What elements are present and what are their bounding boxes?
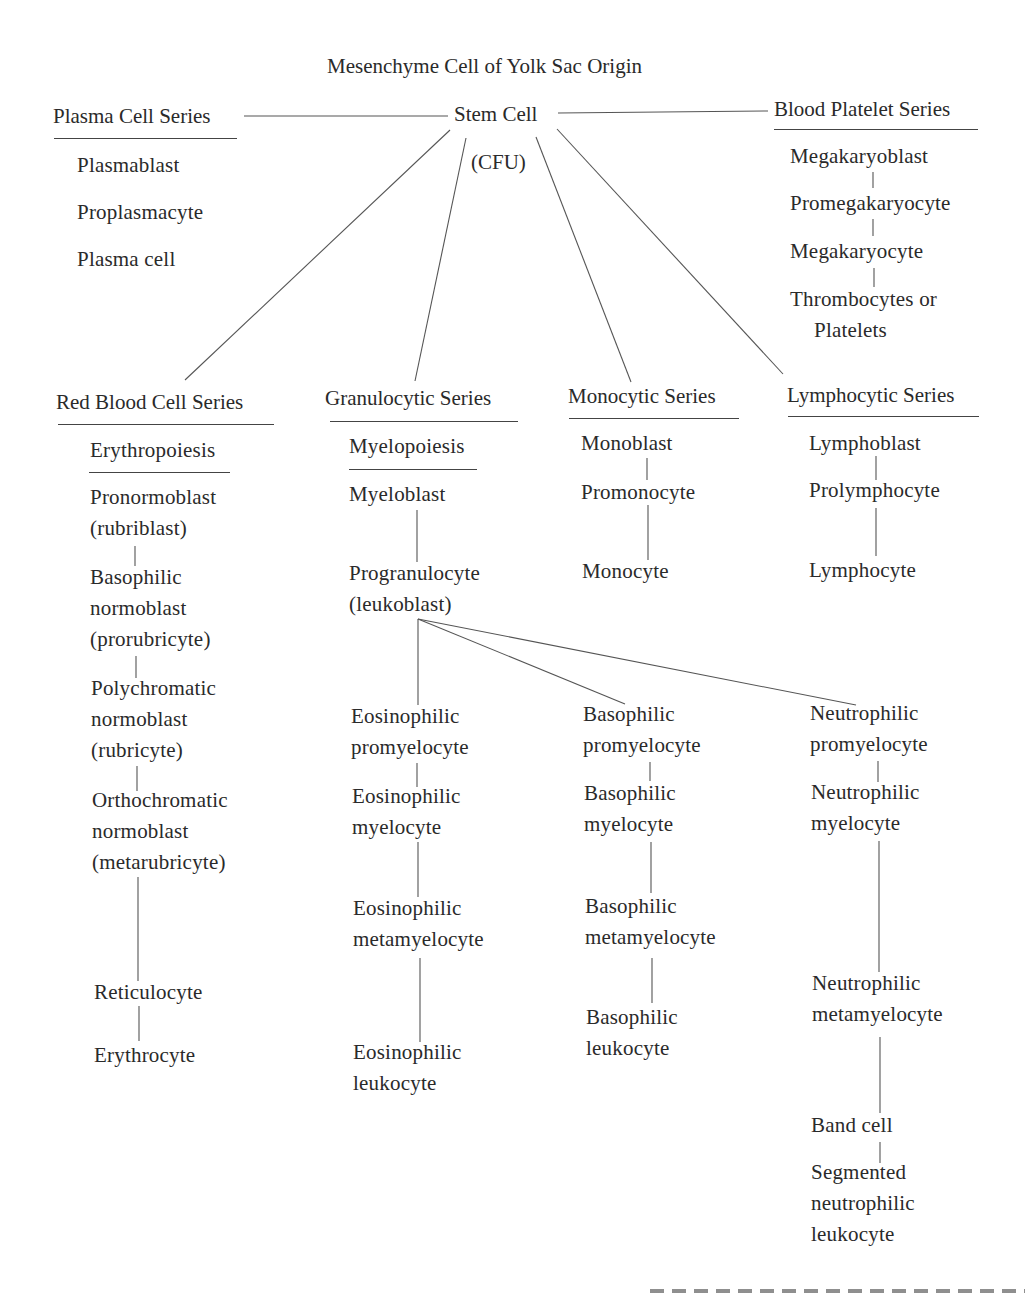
lymphocytic-stage: Lymphocyte xyxy=(809,555,916,586)
root-stem-cell: Stem Cell xyxy=(454,100,537,128)
granulocytic-subtitle-rule xyxy=(349,469,477,470)
red-series-title: Red Blood Cell Series xyxy=(56,388,243,416)
lymphocytic-stage: Prolymphocyte xyxy=(809,475,940,506)
granulocytic-series-rule xyxy=(330,421,518,422)
monocytic-series-rule xyxy=(569,418,739,419)
eosinophilic-stage: Eosinophilicpromyelocyte xyxy=(351,701,469,763)
monocytic-stage: Promonocyte xyxy=(581,477,695,508)
plasma-series-title: Plasma Cell Series xyxy=(53,102,210,130)
diagram-title: Mesenchyme Cell of Yolk Sac Origin xyxy=(327,52,642,80)
granulocytic-series-subtitle: Myelopoiesis xyxy=(349,431,465,462)
neutrophilic-stage: Neutrophilicpromyelocyte xyxy=(810,698,928,760)
neutrophilic-stage: Neutrophilicmetamyelocyte xyxy=(812,968,943,1030)
plasma-stage: Plasma cell xyxy=(77,244,175,275)
eosinophilic-stage: Eosinophilicmetamyelocyte xyxy=(353,893,484,955)
eosinophilic-stage: Eosinophilicmyelocyte xyxy=(352,781,461,843)
basophilic-stage: Basophilicmetamyelocyte xyxy=(585,891,716,953)
granulocytic-stage: Progranulocyte(leukoblast) xyxy=(349,558,480,620)
plasma-series-rule xyxy=(54,138,237,139)
granulocytic-series-title: Granulocytic Series xyxy=(325,384,491,412)
plasma-stage: Proplasmacyte xyxy=(77,197,203,228)
platelet-stage: Promegakaryocyte xyxy=(790,188,951,219)
red-stage: Reticulocyte xyxy=(94,977,203,1008)
neutrophilic-stage: Neutrophilicmyelocyte xyxy=(811,777,920,839)
red-stage: Polychromaticnormoblast(rubricyte) xyxy=(91,673,216,766)
platelet-stage: Thrombocytes or xyxy=(790,284,937,315)
platelet-stage: Megakaryoblast xyxy=(790,141,928,172)
plasma-stage: Plasmablast xyxy=(77,150,180,181)
red-series-rule xyxy=(58,424,274,425)
root-cfu-label: (CFU) xyxy=(471,148,526,176)
lymphocytic-series-rule xyxy=(788,416,979,417)
eosinophilic-stage: Eosinophilicleukocyte xyxy=(353,1037,462,1099)
red-subtitle-rule xyxy=(89,472,230,473)
granulocytic-stage: Myeloblast xyxy=(349,479,446,510)
platelet-series-title: Blood Platelet Series xyxy=(774,95,950,123)
clipped-footer-remnant xyxy=(650,1287,1025,1293)
lymphocytic-series-title: Lymphocytic Series xyxy=(787,381,954,409)
platelet-stage: Platelets xyxy=(814,315,887,346)
monocytic-stage: Monocyte xyxy=(582,556,669,587)
basophilic-stage: Basophilicmyelocyte xyxy=(584,778,676,840)
neutrophilic-stage: Band cell xyxy=(811,1110,893,1141)
red-series-subtitle: Erythropoiesis xyxy=(90,435,215,466)
monocytic-stage: Monoblast xyxy=(581,428,673,459)
basophilic-stage: Basophilicpromyelocyte xyxy=(583,699,701,761)
monocytic-series-title: Monocytic Series xyxy=(568,382,716,410)
neutrophilic-stage: Segmentedneutrophilicleukocyte xyxy=(811,1157,915,1250)
red-stage: Pronormoblast(rubriblast) xyxy=(90,482,216,544)
platelet-series-rule xyxy=(774,129,978,130)
red-stage: Orthochromaticnormoblast(metarubricyte) xyxy=(92,785,228,878)
platelet-stage: Megakaryocyte xyxy=(790,236,923,267)
red-stage: Basophilicnormoblast(prorubricyte) xyxy=(90,562,211,655)
red-stage: Erythrocyte xyxy=(94,1040,195,1071)
basophilic-stage: Basophilicleukocyte xyxy=(586,1002,678,1064)
lymphocytic-stage: Lymphoblast xyxy=(809,428,921,459)
